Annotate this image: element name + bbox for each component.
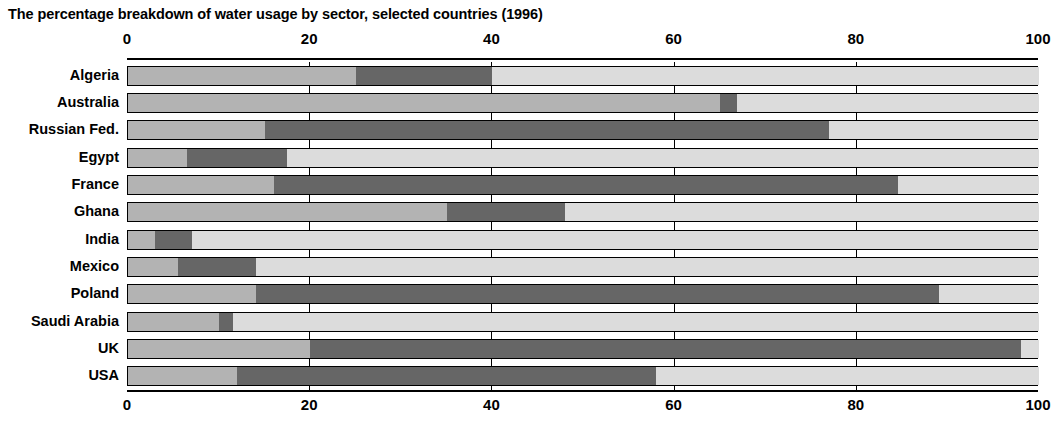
gridline-tick xyxy=(856,86,857,93)
bar-segment-agriculture xyxy=(128,176,274,194)
bar-segment-domestic xyxy=(829,121,1039,139)
bar-segment-industry xyxy=(178,258,255,276)
bar-row xyxy=(127,257,1038,277)
bar-row xyxy=(127,66,1038,86)
y-axis-label-australia: Australia xyxy=(0,94,119,110)
bar-segment-industry xyxy=(310,340,1021,358)
bar-segment-domestic xyxy=(1021,340,1039,358)
bar-segment-agriculture xyxy=(128,285,256,303)
gridline-tick xyxy=(309,86,310,93)
gridline-tick xyxy=(674,140,675,147)
gridline-tick xyxy=(309,168,310,175)
bar-segment-agriculture xyxy=(128,313,219,331)
bar-segment-agriculture xyxy=(128,258,178,276)
x-tick-label-top-20: 20 xyxy=(301,30,318,48)
gridline-tick xyxy=(856,332,857,339)
bar-segment-industry xyxy=(187,149,287,167)
y-axis-label-india: India xyxy=(0,231,119,247)
gridline-tick xyxy=(491,277,492,284)
gridline-tick xyxy=(491,304,492,311)
gridline-tick xyxy=(309,332,310,339)
gridline-tick xyxy=(674,277,675,284)
x-tick-label-top-0: 0 xyxy=(123,30,131,48)
x-axis-bottom-labels: 020406080100 xyxy=(127,396,1038,416)
gridline-tick xyxy=(674,332,675,339)
bar-row xyxy=(127,202,1038,222)
x-tick-label-bottom-40: 40 xyxy=(483,396,500,414)
gridline-tick xyxy=(309,62,310,66)
bar-segment-domestic xyxy=(492,67,1039,85)
bar-segment-agriculture xyxy=(128,340,310,358)
bar-row xyxy=(127,93,1038,113)
x-tick-label-bottom-60: 60 xyxy=(665,396,682,414)
plot-area xyxy=(127,62,1038,390)
x-tick-label-bottom-0: 0 xyxy=(123,396,131,414)
bar-segment-domestic xyxy=(565,203,1039,221)
bar-row xyxy=(127,312,1038,332)
axis-rule-bottom xyxy=(127,390,1038,392)
y-axis-label-usa: USA xyxy=(0,367,119,383)
gridline-tick xyxy=(674,359,675,366)
gridline-tick xyxy=(674,195,675,202)
bar-row xyxy=(127,339,1038,359)
gridline-tick xyxy=(856,359,857,366)
gridline-tick xyxy=(674,304,675,311)
x-tick-label-top-60: 60 xyxy=(665,30,682,48)
gridline-tick xyxy=(856,250,857,257)
gridline-tick xyxy=(309,277,310,284)
gridline-tick xyxy=(491,222,492,229)
gridline-tick xyxy=(491,386,492,390)
x-tick-label-bottom-80: 80 xyxy=(847,396,864,414)
gridline-tick xyxy=(674,113,675,120)
bar-segment-agriculture xyxy=(128,231,155,249)
gridline-tick xyxy=(674,62,675,66)
bar-row xyxy=(127,366,1038,386)
gridline-tick xyxy=(674,168,675,175)
gridline-tick xyxy=(309,250,310,257)
y-axis-label-uk: UK xyxy=(0,340,119,356)
bar-segment-domestic xyxy=(656,367,1039,385)
gridline-tick xyxy=(856,62,857,66)
y-axis-label-ghana: Ghana xyxy=(0,203,119,219)
axis-rule-top xyxy=(127,58,1038,60)
gridline-tick xyxy=(491,168,492,175)
x-tick-label-top-100: 100 xyxy=(1025,30,1050,48)
y-axis-label-algeria: Algeria xyxy=(0,67,119,83)
bar-segment-industry xyxy=(447,203,565,221)
gridline-tick xyxy=(674,222,675,229)
bar-segment-domestic xyxy=(256,258,1039,276)
x-tick-label-bottom-100: 100 xyxy=(1025,396,1050,414)
gridline-tick xyxy=(856,195,857,202)
gridline-tick xyxy=(309,195,310,202)
bar-segment-industry xyxy=(265,121,830,139)
gridline-tick xyxy=(309,140,310,147)
bar-segment-agriculture xyxy=(128,367,237,385)
gridline-tick xyxy=(491,140,492,147)
gridline-tick xyxy=(674,386,675,390)
gridline-tick xyxy=(491,62,492,66)
bar-segment-agriculture xyxy=(128,149,187,167)
y-axis-label-mexico: Mexico xyxy=(0,258,119,274)
bar-segment-industry xyxy=(356,67,493,85)
gridline-tick xyxy=(856,386,857,390)
bar-segment-domestic xyxy=(898,176,1039,194)
x-tick-label-top-40: 40 xyxy=(483,30,500,48)
gridline-tick xyxy=(491,359,492,366)
bar-segment-domestic xyxy=(939,285,1039,303)
gridline-tick xyxy=(856,304,857,311)
bar-row xyxy=(127,148,1038,168)
gridline-tick xyxy=(856,222,857,229)
gridline-tick xyxy=(309,113,310,120)
bar-row xyxy=(127,284,1038,304)
y-axis-label-france: France xyxy=(0,176,119,192)
gridline-tick xyxy=(856,113,857,120)
bar-segment-industry xyxy=(720,94,736,112)
gridline-tick xyxy=(856,140,857,147)
bar-segment-industry xyxy=(274,176,898,194)
gridline-tick xyxy=(856,168,857,175)
x-tick-label-bottom-20: 20 xyxy=(301,396,318,414)
gridline-tick xyxy=(674,86,675,93)
gridline-tick xyxy=(491,113,492,120)
bar-row xyxy=(127,120,1038,140)
gridline-tick xyxy=(674,250,675,257)
